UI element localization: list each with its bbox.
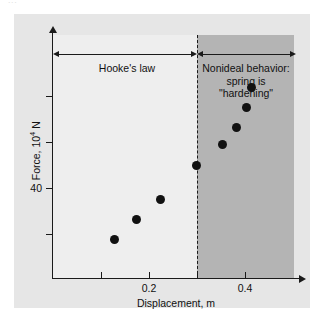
x-axis-tick-label: 0.2 bbox=[137, 282, 161, 294]
regime-divider-dashed-line bbox=[197, 35, 198, 279]
nonideal-range-line bbox=[203, 54, 294, 55]
nonideal-annotation-line-2: spring is bbox=[199, 75, 293, 88]
y-axis-arrowhead-icon bbox=[49, 26, 57, 33]
x-axis-line bbox=[52, 278, 300, 279]
y-axis-label-unit: N bbox=[30, 121, 42, 132]
data-point bbox=[156, 195, 165, 204]
y-axis-label-base: Force, 10 bbox=[30, 136, 42, 180]
data-point bbox=[132, 215, 141, 224]
x-axis-arrowhead-icon bbox=[299, 275, 306, 283]
x-axis-tick bbox=[245, 272, 246, 279]
x-axis-label: Displacement, m bbox=[52, 297, 300, 309]
hooke-range-line bbox=[59, 54, 195, 55]
nonideal-annotation-line-1: Nonideal behavior: bbox=[199, 62, 293, 75]
data-point bbox=[192, 161, 201, 170]
y-axis-tick bbox=[46, 234, 53, 235]
hooke-law-annotation: Hooke's law bbox=[59, 62, 195, 74]
y-axis-line bbox=[52, 32, 53, 279]
nonideal-range-arrow-right-icon bbox=[290, 51, 296, 57]
data-point bbox=[247, 83, 256, 92]
y-axis-tick bbox=[46, 188, 53, 189]
data-point bbox=[242, 103, 251, 112]
figure-panel: Hooke's law Nonideal behavior: spring is… bbox=[14, 14, 310, 308]
scanned-text-fragment: ... bbox=[0, 0, 324, 12]
x-axis-tick bbox=[149, 272, 150, 279]
y-axis-label-exponent: 4 bbox=[28, 132, 37, 136]
x-axis-tick-label: 0.4 bbox=[233, 282, 257, 294]
hooke-range-arrow-left-icon bbox=[53, 51, 59, 57]
x-axis-tick bbox=[101, 272, 102, 279]
nonideal-annotation-line-3: "hardening" bbox=[199, 87, 293, 100]
y-axis-tick bbox=[46, 142, 53, 143]
nonideal-range-arrow-left-icon bbox=[197, 51, 203, 57]
nonideal-behavior-annotation: Nonideal behavior: spring is "hardening" bbox=[199, 62, 293, 100]
y-axis-tick bbox=[46, 96, 53, 97]
scanned-text-fragment-label: ... bbox=[8, 0, 17, 5]
y-axis-tick-label: 40 bbox=[20, 182, 42, 194]
